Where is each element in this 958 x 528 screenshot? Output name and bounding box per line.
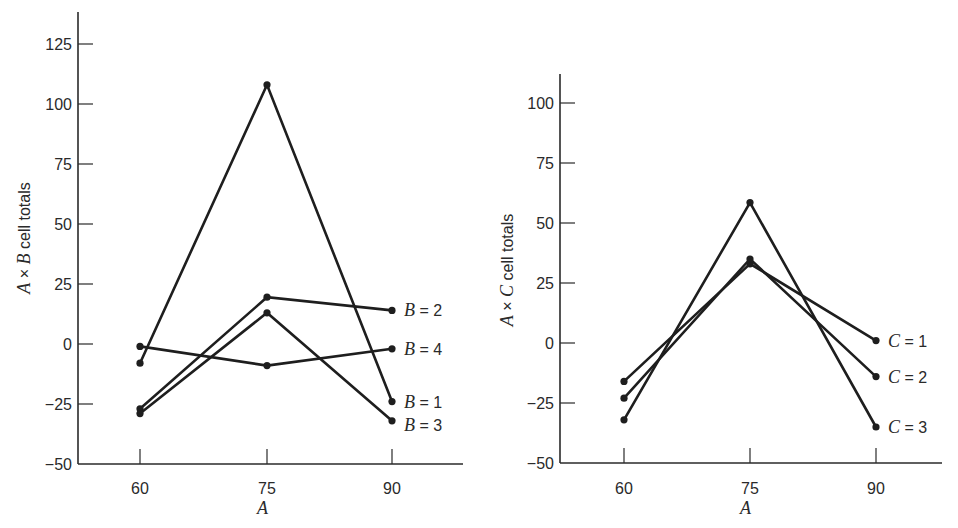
chart-a-by-b-plot: 1251007550250−25−50607590AA × B cell tot… [0,0,479,528]
chart-a-by-c: 1007550250−25−50607590AA × C cell totals… [479,0,958,528]
y-tick-label: 50 [54,216,72,233]
series-line: C = 3 [620,199,927,437]
series-label: C = 2 [888,367,927,387]
series-path [624,259,876,398]
data-point-marker [388,345,395,352]
axes: 1007550250−25−50607590AA × C cell totals [497,74,942,518]
y-tick-label: 25 [54,276,72,293]
y-tick-label: 50 [536,215,554,232]
x-tick-label: 90 [383,480,401,497]
y-tick-label: 25 [536,275,554,292]
x-tick-label: 60 [615,480,633,497]
y-axis-title: A × C cell totals [497,214,517,327]
y-tick-label: −50 [45,456,72,473]
series-path [624,264,876,382]
x-tick-label: 60 [131,480,149,497]
data-point-marker [136,410,143,417]
data-point-marker [388,398,395,405]
series-line: B = 4 [136,339,442,369]
data-point-marker [620,416,627,423]
y-axis-title: A × B cell totals [14,182,34,294]
data-point-marker [746,255,753,262]
y-tick-label: 100 [527,95,554,112]
y-tick-label: 75 [536,155,554,172]
series-label: B = 2 [404,300,442,320]
x-axis-title: A [256,498,269,518]
series-path [624,203,876,427]
data-point-marker [872,337,879,344]
y-tick-label: 0 [545,335,554,352]
y-tick-label: 75 [54,156,72,173]
chart-a-by-b: 1251007550250−25−50607590AA × B cell tot… [0,0,479,528]
data-point-marker [746,199,753,206]
data-point-marker [263,362,270,369]
y-tick-label: −25 [45,396,72,413]
x-axis-title: A [739,498,752,518]
y-tick-label: −25 [527,395,554,412]
series-label: C = 1 [888,331,927,351]
series-line: C = 1 [620,260,927,385]
y-tick-label: 125 [45,36,72,53]
x-tick-label: 75 [741,480,759,497]
x-tick-label: 75 [258,480,276,497]
data-point-marker [263,294,270,301]
data-point-marker [136,360,143,367]
data-point-marker [388,307,395,314]
series-label: B = 1 [404,392,442,412]
data-point-marker [263,309,270,316]
y-tick-label: 100 [45,96,72,113]
data-point-marker [136,343,143,350]
data-point-marker [872,373,879,380]
data-point-marker [872,423,879,430]
data-point-marker [263,81,270,88]
data-point-marker [388,417,395,424]
data-point-marker [620,378,627,385]
axes: 1251007550250−25−50607590AA × B cell tot… [14,12,463,518]
x-tick-label: 90 [867,480,885,497]
series-label: B = 4 [404,339,442,359]
y-tick-label: 0 [63,336,72,353]
series-label: C = 3 [888,417,927,437]
y-tick-label: −50 [527,455,554,472]
series-label: B = 3 [404,415,442,435]
data-point-marker [620,395,627,402]
chart-a-by-c-plot: 1007550250−25−50607590AA × C cell totals… [479,0,958,528]
